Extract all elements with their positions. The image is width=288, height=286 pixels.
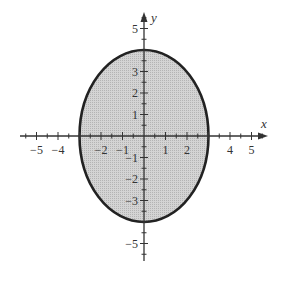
- y-tick-label: 5: [132, 22, 138, 36]
- x-tick-label: 1: [163, 143, 169, 157]
- x-tick-label: −5: [30, 143, 43, 157]
- y-axis-arrow-icon: [141, 12, 148, 22]
- y-tick-label: −2: [125, 172, 138, 186]
- y-axis-label: y: [149, 10, 157, 25]
- y-tick-label: 3: [132, 65, 138, 79]
- y-tick-label: −3: [125, 194, 138, 208]
- x-tick-label: −4: [52, 143, 65, 157]
- x-tick-label: −2: [95, 143, 108, 157]
- axes: [20, 12, 268, 261]
- y-tick-label: 2: [132, 86, 138, 100]
- y-tick-label: −5: [125, 237, 138, 251]
- x-tick-label: 5: [249, 143, 255, 157]
- x-axis-label: x: [260, 116, 267, 131]
- x-tick-label: 4: [227, 143, 233, 157]
- x-tick-label: 2: [184, 143, 190, 157]
- y-tick-label: 1: [132, 108, 138, 122]
- ellipse-graph: −5−4−2−112455321−1−2−3−5 x y: [0, 0, 288, 286]
- y-tick-label: −1: [125, 151, 138, 165]
- x-axis-arrow-icon: [258, 133, 268, 140]
